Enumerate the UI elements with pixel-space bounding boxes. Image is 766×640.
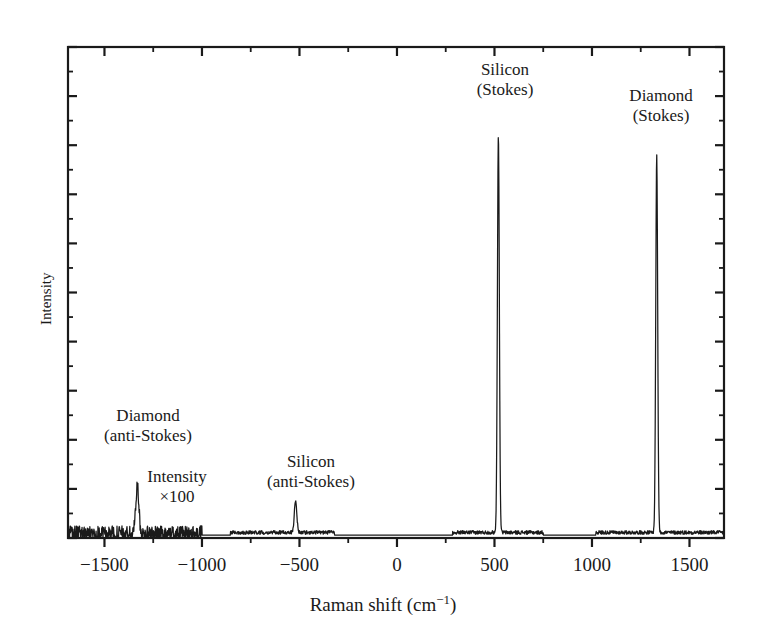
annotation-line-2: (Stokes) bbox=[415, 80, 595, 100]
annotation-silicon-stokes: Silicon(Stokes) bbox=[415, 60, 595, 100]
x-axis-title-tail: ) bbox=[450, 594, 456, 615]
annotation-diamond-stokes: Diamond(Stokes) bbox=[571, 86, 751, 126]
annotation-diamond-anti-stokes: Diamond(anti-Stokes) bbox=[58, 406, 238, 446]
annotation-line-1: Silicon bbox=[415, 60, 595, 80]
figure-raman-spectrum: −1500−1000−500050010001500 Diamond(anti-… bbox=[0, 0, 766, 640]
x-axis-title-exponent: −1 bbox=[436, 592, 450, 607]
annotation-line-1: Diamond bbox=[571, 86, 751, 106]
annotation-line-2: (Stokes) bbox=[571, 106, 751, 126]
annotation-line-2: (anti-Stokes) bbox=[221, 472, 401, 492]
annotation-silicon-anti-stokes: Silicon(anti-Stokes) bbox=[221, 452, 401, 492]
x-axis-title-text: Raman shift (cm bbox=[310, 594, 437, 615]
x-tick-label: 1500 bbox=[629, 554, 749, 576]
annotation-line-1: Diamond bbox=[58, 406, 238, 426]
x-axis-title: Raman shift (cm−1) bbox=[0, 592, 766, 617]
y-axis-title: Intensity bbox=[38, 273, 55, 326]
annotation-line-1: Silicon bbox=[221, 452, 401, 472]
annotation-line-2: (anti-Stokes) bbox=[58, 426, 238, 446]
